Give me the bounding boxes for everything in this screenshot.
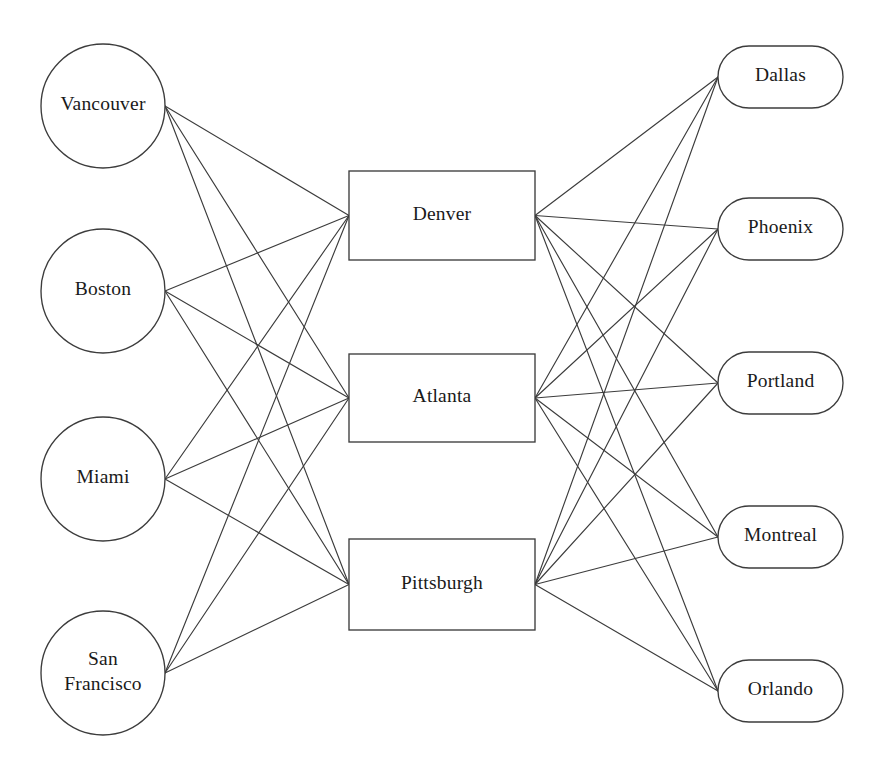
edge-vancouver-to-atlanta — [165, 106, 349, 398]
node-pittsburgh[interactable]: Pittsburgh — [349, 539, 535, 630]
node-boston[interactable]: Boston — [41, 229, 165, 353]
node-dallas[interactable]: Dallas — [718, 46, 843, 108]
node-label-portland: Portland — [747, 370, 815, 391]
network-diagram: VancouverBostonMiamiSanFranciscoDenverAt… — [0, 0, 885, 759]
node-orlando[interactable]: Orlando — [718, 660, 843, 722]
node-san-francisco[interactable]: SanFrancisco — [41, 611, 165, 735]
edge-pittsburgh-to-portland — [535, 383, 718, 585]
edge-denver-to-portland — [535, 216, 718, 384]
node-vancouver[interactable]: Vancouver — [41, 44, 165, 168]
node-label-phoenix: Phoenix — [748, 216, 813, 237]
node-montreal[interactable]: Montreal — [718, 506, 843, 568]
edge-denver-to-montreal — [535, 216, 718, 538]
node-miami[interactable]: Miami — [41, 417, 165, 541]
node-label-dallas: Dallas — [755, 64, 806, 85]
node-denver[interactable]: Denver — [349, 171, 535, 260]
edge-pittsburgh-to-dallas — [535, 77, 718, 585]
node-label-miami: Miami — [77, 466, 130, 487]
edge-atlanta-to-montreal — [535, 398, 718, 537]
node-label-orlando: Orlando — [748, 678, 813, 699]
edge-denver-to-dallas — [535, 77, 718, 216]
network-canvas: VancouverBostonMiamiSanFranciscoDenverAt… — [0, 0, 885, 759]
edge-san-francisco-to-pittsburgh — [165, 585, 349, 674]
node-label-denver: Denver — [413, 203, 472, 224]
node-portland[interactable]: Portland — [718, 352, 843, 414]
nodes-group: VancouverBostonMiamiSanFranciscoDenverAt… — [41, 44, 843, 735]
edge-boston-to-denver — [165, 216, 349, 292]
edge-pittsburgh-to-phoenix — [535, 229, 718, 585]
node-atlanta[interactable]: Atlanta — [349, 354, 535, 442]
node-label-atlanta: Atlanta — [413, 385, 472, 406]
node-label-boston: Boston — [75, 278, 132, 299]
edge-denver-to-orlando — [535, 216, 718, 692]
edge-atlanta-to-phoenix — [535, 229, 718, 398]
node-label-pittsburgh: Pittsburgh — [401, 572, 483, 593]
node-phoenix[interactable]: Phoenix — [718, 198, 843, 260]
node-label-montreal: Montreal — [744, 524, 817, 545]
edge-denver-to-phoenix — [535, 216, 718, 230]
node-label-vancouver: Vancouver — [60, 93, 145, 114]
edge-san-francisco-to-denver — [165, 216, 349, 674]
edge-miami-to-pittsburgh — [165, 479, 349, 585]
edge-boston-to-atlanta — [165, 291, 349, 398]
edge-boston-to-pittsburgh — [165, 291, 349, 585]
edge-atlanta-to-portland — [535, 383, 718, 398]
edge-vancouver-to-denver — [165, 106, 349, 216]
edge-vancouver-to-pittsburgh — [165, 106, 349, 585]
edge-pittsburgh-to-orlando — [535, 585, 718, 692]
edge-atlanta-to-dallas — [535, 77, 718, 398]
